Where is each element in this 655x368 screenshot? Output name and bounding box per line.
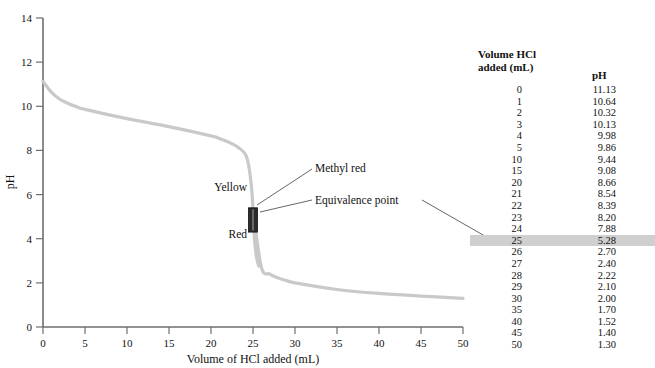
table-row: 282.22 xyxy=(470,270,655,282)
y-tick-label-8: 8 xyxy=(27,144,33,156)
cell-ph: 2.10 xyxy=(570,281,616,293)
titration-figure: 14 12 10 8 6 4 2 0 0 xyxy=(0,0,655,368)
y-tick-label-0: 0 xyxy=(27,321,33,333)
annotation-red: Red xyxy=(228,228,247,240)
table-row: 49.98 xyxy=(470,130,655,142)
titration-data-table: Volume HCl added (mL) pH 011.13110.64210… xyxy=(470,48,655,351)
cell-volume: 3 xyxy=(470,119,522,131)
cell-ph: 5.28 xyxy=(570,235,616,247)
cell-ph: 7.88 xyxy=(570,223,616,235)
y-axis-ticks xyxy=(36,18,43,327)
y-tick-label-10: 10 xyxy=(21,100,33,112)
table-row: 208.66 xyxy=(470,177,655,189)
x-axis-ticks xyxy=(43,327,463,334)
cell-ph: 8.20 xyxy=(570,212,616,224)
cell-volume: 23 xyxy=(470,212,522,224)
cell-ph: 1.52 xyxy=(570,316,616,328)
titration-chart: 14 12 10 8 6 4 2 0 0 xyxy=(0,0,470,368)
cell-volume: 2 xyxy=(470,107,522,119)
cell-ph: 9.98 xyxy=(570,130,616,142)
cell-ph: 9.86 xyxy=(570,142,616,154)
cell-ph: 8.54 xyxy=(570,188,616,200)
table-row: 159.08 xyxy=(470,165,655,177)
table-row: 218.54 xyxy=(470,188,655,200)
y-tick-label-2: 2 xyxy=(27,277,33,289)
x-tick-label-20: 20 xyxy=(206,337,218,349)
table-row: 302.00 xyxy=(470,293,655,305)
y-tick-label-4: 4 xyxy=(27,233,33,245)
table-header-volume-line1: Volume HCl xyxy=(478,48,570,61)
cell-ph: 8.39 xyxy=(570,200,616,212)
table-body: 011.13110.64210.32310.1349.9859.86109.44… xyxy=(470,84,655,351)
table-row: 228.39 xyxy=(470,200,655,212)
x-tick-label-5: 5 xyxy=(82,337,88,349)
x-tick-label-40: 40 xyxy=(374,337,386,349)
leader-line-equivalence-point xyxy=(260,200,312,212)
cell-ph: 2.22 xyxy=(570,270,616,282)
table-row: 238.20 xyxy=(470,212,655,224)
table-row: 011.13 xyxy=(470,84,655,96)
table-row: 110.64 xyxy=(470,96,655,108)
x-axis-title: Volume of HCl added (mL) xyxy=(187,352,319,366)
cell-ph: 11.13 xyxy=(570,84,616,96)
table-row: 109.44 xyxy=(470,154,655,166)
cell-ph: 2.40 xyxy=(570,258,616,270)
table-row: 292.10 xyxy=(470,281,655,293)
table-row: 401.52 xyxy=(470,316,655,328)
cell-volume: 21 xyxy=(470,188,522,200)
cell-volume: 4 xyxy=(470,130,522,142)
titration-curve xyxy=(43,81,463,298)
table-header: Volume HCl added (mL) pH xyxy=(470,48,655,84)
leader-line-methyl-red xyxy=(257,169,312,205)
cell-volume: 45 xyxy=(470,327,522,339)
table-header-volume-line2: added (mL) xyxy=(478,61,570,74)
x-tick-label-15: 15 xyxy=(164,337,176,349)
x-tick-label-50: 50 xyxy=(458,337,470,349)
cell-volume: 50 xyxy=(470,339,522,351)
y-tick-label-14: 14 xyxy=(21,12,33,24)
table-row: 59.86 xyxy=(470,142,655,154)
cell-volume: 22 xyxy=(470,200,522,212)
annotation-methyl-red: Methyl red xyxy=(315,162,366,175)
table-row: 351.70 xyxy=(470,304,655,316)
cell-volume: 10 xyxy=(470,154,522,166)
table-row: 501.30 xyxy=(470,339,655,351)
cell-volume: 27 xyxy=(470,258,522,270)
cell-volume: 20 xyxy=(470,177,522,189)
table-row: 255.28 xyxy=(470,235,655,247)
cell-ph: 10.64 xyxy=(570,96,616,108)
cell-volume: 35 xyxy=(470,304,522,316)
cell-ph: 9.08 xyxy=(570,165,616,177)
cell-volume: 0 xyxy=(470,84,522,96)
annotation-equivalence-point: Equivalence point xyxy=(315,194,399,207)
x-tick-label-35: 35 xyxy=(332,337,344,349)
table-row: 210.32 xyxy=(470,107,655,119)
cell-ph: 8.66 xyxy=(570,177,616,189)
x-tick-label-0: 0 xyxy=(40,337,46,349)
table-row: 272.40 xyxy=(470,258,655,270)
cell-ph: 2.70 xyxy=(570,246,616,258)
y-axis-title: pH xyxy=(3,174,17,189)
cell-ph: 1.40 xyxy=(570,327,616,339)
chart-svg: 14 12 10 8 6 4 2 0 0 xyxy=(0,0,470,368)
table-header-volume: Volume HCl added (mL) xyxy=(478,48,570,73)
y-tick-label-6: 6 xyxy=(27,189,33,201)
cell-volume: 15 xyxy=(470,165,522,177)
cell-volume: 25 xyxy=(470,235,522,247)
x-tick-label-10: 10 xyxy=(122,337,134,349)
cell-ph: 9.44 xyxy=(570,154,616,166)
cell-volume: 40 xyxy=(470,316,522,328)
x-tick-label-25: 25 xyxy=(248,337,260,349)
cell-ph: 10.13 xyxy=(570,119,616,131)
cell-ph: 1.70 xyxy=(570,304,616,316)
table-row: 247.88 xyxy=(470,223,655,235)
cell-volume: 1 xyxy=(470,96,522,108)
x-tick-label-45: 45 xyxy=(416,337,428,349)
annotation-yellow: Yellow xyxy=(214,181,247,193)
cell-volume: 26 xyxy=(470,246,522,258)
cell-volume: 29 xyxy=(470,281,522,293)
cell-volume: 24 xyxy=(470,223,522,235)
cell-volume: 28 xyxy=(470,270,522,282)
table-row: 262.70 xyxy=(470,246,655,258)
x-tick-label-30: 30 xyxy=(290,337,302,349)
